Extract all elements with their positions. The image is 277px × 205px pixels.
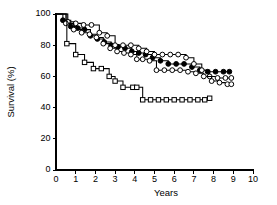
marker-circle-open-2-17 <box>192 62 197 67</box>
marker-circle-open-3-3 <box>79 30 84 35</box>
x-tick-label-2: 2 <box>93 174 98 184</box>
marker-circle-open-3-12 <box>140 57 145 62</box>
marker-square-4-6 <box>107 74 111 78</box>
marker-circle-open-3-1 <box>63 21 68 26</box>
marker-circle-open-3-11 <box>134 57 139 62</box>
marker-square-4-2 <box>74 52 78 56</box>
marker-circle-filled-1-16 <box>166 62 171 67</box>
marker-circle-filled-1-23 <box>221 69 226 74</box>
x-tick-label-5: 5 <box>152 174 157 184</box>
marker-circle-open-2-9 <box>128 43 133 48</box>
marker-square-4-16 <box>180 98 184 102</box>
x-tick-label-0: 0 <box>53 174 58 184</box>
marker-circle-open-3-16 <box>170 68 175 73</box>
marker-square-4-17 <box>188 98 192 102</box>
marker-circle-open-3-15 <box>162 68 167 73</box>
marker-circle-open-3-10 <box>128 52 133 57</box>
marker-circle-filled-1-18 <box>182 62 187 67</box>
marker-circle-open-2-4 <box>89 23 94 28</box>
marker-circle-open-3-6 <box>101 41 106 46</box>
marker-circle-open-2-16 <box>184 55 189 60</box>
marker-circle-open-2-15 <box>176 52 181 57</box>
marker-circle-filled-1-22 <box>213 69 218 74</box>
marker-circle-filled-1-15 <box>158 58 163 63</box>
marker-square-4-19 <box>203 98 207 102</box>
marker-circle-open-3-17 <box>178 68 183 73</box>
marker-square-4-10 <box>135 85 139 89</box>
marker-circle-open-2-7 <box>113 43 118 48</box>
marker-circle-open-2-6 <box>105 33 110 38</box>
marker-square-4-1 <box>65 41 69 45</box>
x-axis-title: Years <box>154 187 178 198</box>
marker-circle-open-3-2 <box>71 27 76 32</box>
x-tick-label-1: 1 <box>73 174 78 184</box>
marker-circle-open-2-21 <box>223 76 228 81</box>
survival-curve-figure: 020406080100 012345678910 Years Survival… <box>0 0 277 205</box>
marker-circle-open-3-19 <box>193 71 198 76</box>
marker-circle-open-3-8 <box>115 49 120 54</box>
series-container <box>56 14 234 102</box>
x-tick-label-8: 8 <box>211 174 216 184</box>
marker-circle-open-2-20 <box>215 76 220 81</box>
marker-square-4-15 <box>172 98 176 102</box>
marker-circle-open-3-13 <box>147 58 152 63</box>
marker-circle-open-2-13 <box>160 52 165 57</box>
marker-square-4-18 <box>196 98 200 102</box>
marker-square-4-20 <box>207 96 211 100</box>
y-tick-label-40: 40 <box>40 102 50 112</box>
marker-circle-open-3-9 <box>122 51 127 56</box>
y-axis: 020406080100 <box>35 8 56 174</box>
marker-square-4-4 <box>91 66 95 70</box>
marker-circle-open-2-11 <box>144 49 149 54</box>
marker-circle-open-3-20 <box>201 74 206 79</box>
y-tick-label-100: 100 <box>35 8 50 18</box>
marker-square-4-12 <box>148 98 152 102</box>
x-tick-label-3: 3 <box>113 174 118 184</box>
marker-circle-open-3-18 <box>186 69 191 74</box>
marker-circle-open-2-8 <box>121 43 126 48</box>
marker-circle-open-3-4 <box>87 32 92 37</box>
marker-circle-open-3-5 <box>94 35 99 40</box>
marker-square-4-3 <box>82 60 86 64</box>
series-2 <box>56 14 234 80</box>
marker-circle-open-2-5 <box>97 30 102 35</box>
y-tick-label-20: 20 <box>40 133 50 143</box>
marker-square-4-13 <box>156 98 160 102</box>
y-tick-label-60: 60 <box>40 71 50 81</box>
x-tick-label-10: 10 <box>248 174 258 184</box>
marker-square-4-7 <box>113 79 117 83</box>
marker-circle-open-2-3 <box>81 23 86 28</box>
x-tick-label-9: 9 <box>231 174 236 184</box>
marker-square-4-5 <box>99 66 103 70</box>
marker-circle-open-3-14 <box>154 68 159 73</box>
marker-circle-open-3-24 <box>229 82 234 87</box>
x-tick-label-6: 6 <box>172 174 177 184</box>
marker-circle-filled-1-24 <box>227 69 232 74</box>
marker-circle-open-2-10 <box>136 46 141 51</box>
marker-square-4-11 <box>140 98 144 102</box>
y-tick-label-80: 80 <box>40 40 50 50</box>
y-axis-title: Survival (%) <box>5 66 16 117</box>
marker-square-4-8 <box>121 85 125 89</box>
marker-square-4-14 <box>164 98 168 102</box>
marker-circle-open-3-22 <box>217 80 222 85</box>
x-axis: 012345678910 <box>53 170 258 184</box>
x-tick-label-7: 7 <box>191 174 196 184</box>
chart-svg: 020406080100 012345678910 Years Survival… <box>0 0 277 205</box>
marker-circle-open-3-21 <box>209 79 214 84</box>
x-tick-label-4: 4 <box>132 174 137 184</box>
y-tick-label-0: 0 <box>45 164 50 174</box>
marker-circle-filled-1-17 <box>174 62 179 67</box>
marker-circle-open-2-12 <box>152 52 157 57</box>
marker-circle-open-2-22 <box>229 76 234 81</box>
marker-circle-open-2-18 <box>199 68 204 73</box>
marker-circle-open-3-7 <box>108 46 113 51</box>
marker-circle-open-2-14 <box>168 52 173 57</box>
